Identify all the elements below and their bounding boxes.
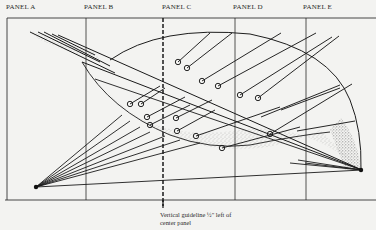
vertex-left [34, 185, 38, 189]
guideline-caption: Vertical guideline ½" left of center pan… [160, 211, 280, 227]
vertex-right [359, 168, 363, 172]
caption-line-1: Vertical guideline ½" left of [160, 211, 280, 219]
caption-line-2: center panel [160, 219, 280, 227]
parallel-lines-upper [30, 32, 362, 170]
panel-diagram [0, 0, 376, 230]
